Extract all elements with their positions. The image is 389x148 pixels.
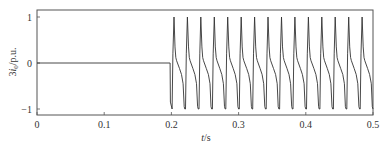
x-tick-label: 0.2: [165, 119, 178, 130]
y-axis-title: 3i0/p.u.: [7, 47, 20, 76]
y-tick-label: 1: [27, 12, 32, 23]
y-tick-label: 0: [27, 58, 32, 69]
waveform-line: [37, 17, 373, 109]
x-tick-label: 0: [35, 119, 40, 130]
x-tick-label: 0.4: [300, 119, 313, 130]
plot-frame: [37, 10, 373, 115]
chart: 00.10.20.30.40.5 −101 t/s 3i0/p.u.: [0, 0, 389, 148]
waveform-series: [37, 17, 373, 109]
x-tick-label: 0.1: [98, 119, 111, 130]
y-tick-label: −1: [21, 104, 32, 115]
x-tick-label: 0.5: [367, 119, 380, 130]
x-tick-label: 0.3: [232, 119, 245, 130]
x-axis-title: t/s: [201, 132, 211, 143]
